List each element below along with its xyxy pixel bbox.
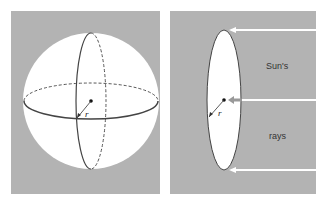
right-panel-background — [170, 11, 316, 194]
sphere-diagram: r r Sun's rays — [0, 0, 326, 202]
sun-rays-label-top: Sun's — [266, 61, 289, 71]
sun-rays-label-bottom: rays — [269, 131, 287, 141]
radius-label-left: r — [85, 109, 89, 119]
radius-label-right: r — [218, 108, 222, 118]
